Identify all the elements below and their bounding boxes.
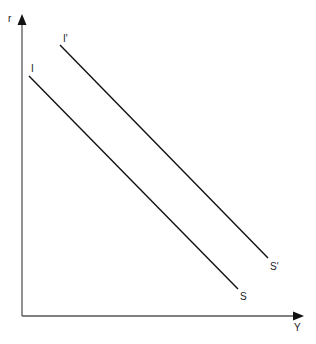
y-axis-label: r xyxy=(8,13,12,24)
is-curve-diagram: r Y I I' S S' xyxy=(0,0,316,344)
s-prime-label: S' xyxy=(270,261,279,272)
i-label: I xyxy=(31,63,34,74)
s-label: S xyxy=(240,291,247,302)
is-line xyxy=(29,76,238,289)
x-axis-arrow-icon xyxy=(293,312,304,321)
i-prime-label: I' xyxy=(63,33,68,44)
y-axis-arrow-icon xyxy=(18,14,27,25)
x-axis-label: Y xyxy=(294,322,301,333)
is-prime-line xyxy=(60,45,268,258)
